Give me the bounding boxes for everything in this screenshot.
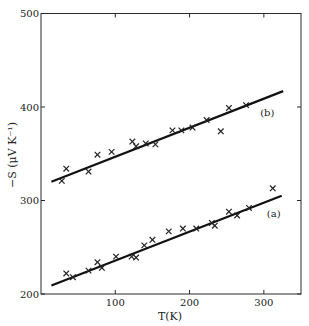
x-marker-icon <box>109 149 115 155</box>
x-marker-icon <box>86 169 92 175</box>
x-marker-icon <box>153 142 159 148</box>
axis-ticks <box>41 14 301 295</box>
x-marker-icon <box>212 223 218 229</box>
tick-labels: 100200300200300400500 <box>20 8 273 308</box>
x-marker-icon <box>218 129 224 135</box>
series-label-b: (b) <box>260 107 274 118</box>
data-markers <box>59 102 276 280</box>
y-tick-label: 300 <box>20 195 39 206</box>
x-marker-icon <box>150 237 156 243</box>
fit-lines <box>51 91 283 285</box>
x-tick-label: 100 <box>106 297 125 308</box>
x-marker-icon <box>226 105 232 111</box>
x-marker-icon <box>63 271 69 277</box>
x-marker-icon <box>270 186 276 192</box>
x-marker-icon <box>95 259 101 265</box>
x-marker-icon <box>166 229 172 235</box>
series-label-a: (a) <box>267 208 281 219</box>
x-marker-icon <box>63 166 69 172</box>
x-tick-label: 300 <box>254 297 273 308</box>
x-marker-icon <box>113 254 119 260</box>
y-tick-label: 200 <box>20 289 39 300</box>
x-tick-label: 200 <box>180 297 199 308</box>
fit-line <box>51 91 283 182</box>
x-marker-icon <box>226 209 232 215</box>
x-marker-icon <box>141 243 147 249</box>
x-marker-icon <box>95 152 101 158</box>
y-axis-label: −S (μV K⁻¹) <box>6 122 19 188</box>
plot-frame <box>41 14 301 295</box>
x-axis-label: T(K) <box>158 310 182 323</box>
x-marker-icon <box>180 226 186 232</box>
y-tick-label: 400 <box>20 102 39 113</box>
x-marker-icon <box>130 139 136 145</box>
x-marker-icon <box>170 128 176 134</box>
y-tick-label: 500 <box>20 8 39 19</box>
seebeck-chart: 100200300200300400500 (b) (a) T(K) −S (μ… <box>0 0 309 326</box>
x-marker-icon <box>133 255 139 261</box>
